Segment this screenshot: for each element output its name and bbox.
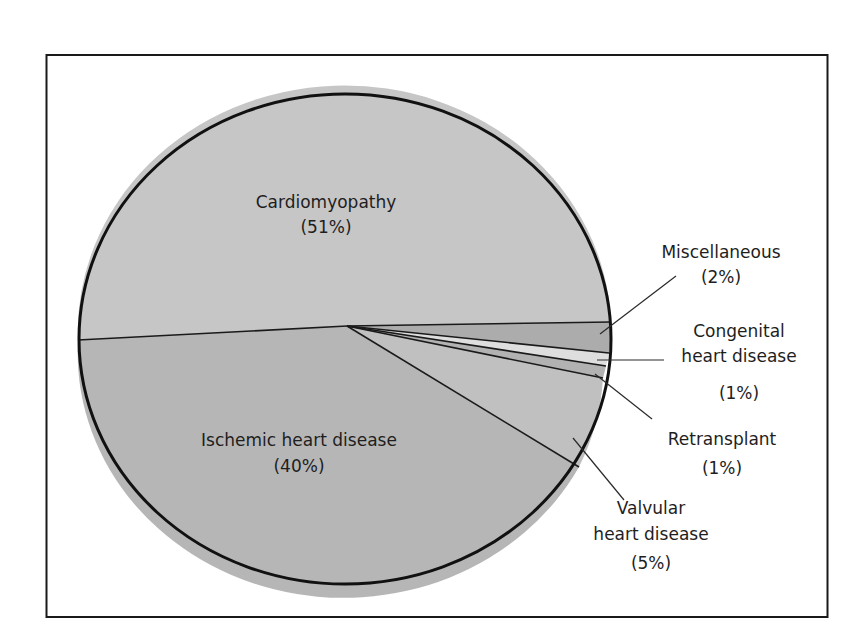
label-cardiomyopathy: Cardiomyopathy: [256, 192, 397, 212]
label-congenital-line1: Congenital: [693, 321, 785, 341]
label-retransplant-pct: (1%): [702, 458, 742, 478]
label-cardiomyopathy-pct: (51%): [300, 217, 351, 237]
label-valvular-line1: Valvular: [617, 498, 685, 518]
label-ischemic: Ischemic heart disease: [201, 430, 397, 450]
label-miscellaneous: Miscellaneous: [661, 242, 780, 262]
pie-chart: Cardiomyopathy (51%) Ischemic heart dise…: [0, 0, 857, 642]
label-valvular-line2: heart disease: [593, 524, 708, 544]
label-congenital-pct: (1%): [719, 383, 759, 403]
label-valvular-pct: (5%): [631, 553, 671, 573]
label-ischemic-pct: (40%): [273, 456, 324, 476]
label-congenital-line2: heart disease: [681, 346, 796, 366]
label-miscellaneous-pct: (2%): [701, 267, 741, 287]
label-retransplant: Retransplant: [668, 429, 777, 449]
